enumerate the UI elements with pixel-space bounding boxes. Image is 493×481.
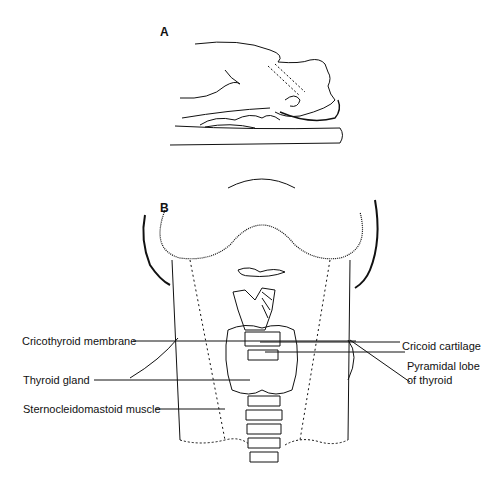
panel-a-drawing <box>170 42 343 145</box>
label-pyramidal-lobe-line1: Pyramidal lobe <box>407 360 480 373</box>
label-cricoid-cartilage: Cricoid cartilage <box>402 340 481 353</box>
anatomy-figure: A B <box>0 0 493 481</box>
label-sternocleidomastoid-muscle: Sternocleidomastoid muscle <box>23 403 161 416</box>
label-thyroid-gland: Thyroid gland <box>23 374 90 387</box>
label-cricothyroid-membrane: Cricothyroid membrane <box>22 335 136 348</box>
panel-b-drawing <box>94 179 410 462</box>
label-pyramidal-lobe-line2: of thyroid <box>407 374 452 387</box>
